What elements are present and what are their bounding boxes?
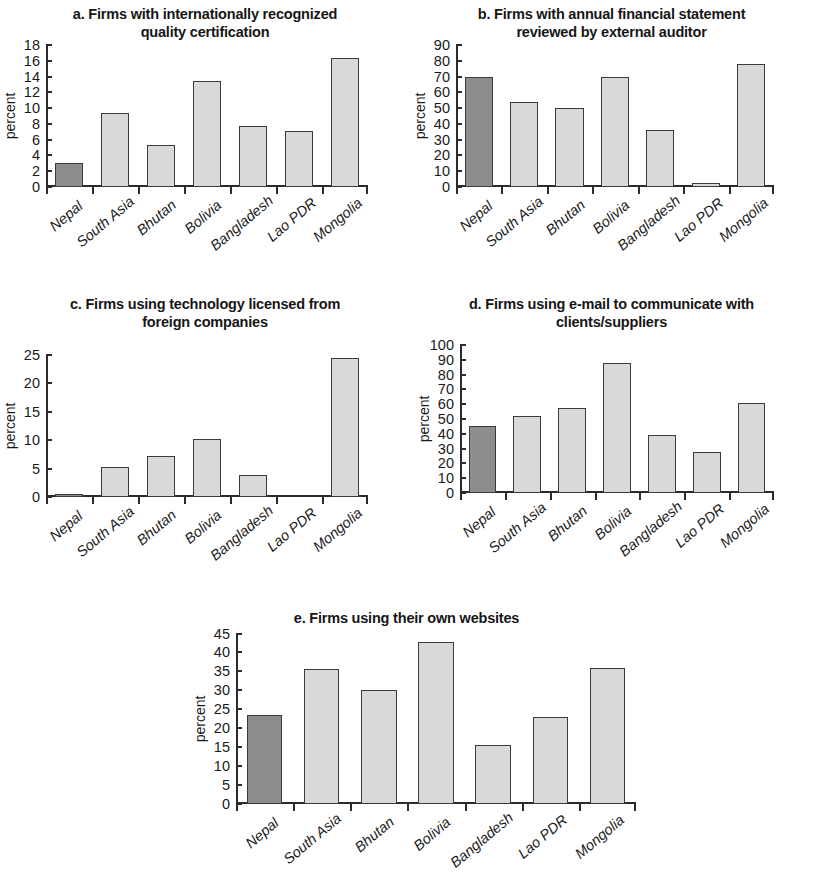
- plot-area-c: percent0510152025NepalSouth AsiaBhutanBo…: [0, 331, 410, 607]
- x-tick-label-e-mongolia: Mongolia: [572, 811, 627, 861]
- y-tick-label-b: 50: [434, 101, 456, 116]
- bar-b-bhutan: [555, 108, 583, 187]
- bar-b-bangladesh: [646, 130, 674, 187]
- y-tick-label-c: 15: [24, 405, 46, 420]
- bar-slot-c-2: [138, 355, 184, 497]
- bar-slot-e-2: [350, 634, 407, 804]
- y-tick-label-d: 50: [438, 412, 460, 427]
- y-tick-label-e: 35: [214, 664, 236, 679]
- x-tick-label-b-nepal: Nepal: [456, 198, 495, 235]
- y-tick-label-a: 12: [24, 85, 46, 100]
- bar-c-south-asia: [101, 467, 130, 497]
- chart-title-a-line2: quality certification: [141, 24, 270, 40]
- bar-slot-e-5: [522, 634, 579, 804]
- bar-slot-d-1: [505, 345, 550, 493]
- bar-slot-d-3: [595, 345, 640, 493]
- x-tick-mark-b-1: [501, 187, 503, 194]
- x-tick-label-e-bolivia: Bolivia: [410, 813, 453, 853]
- x-tick-mark-a-2: [138, 187, 140, 194]
- bar-b-south-asia: [510, 102, 538, 187]
- x-tick-label-c-bhutan: Bhutan: [134, 506, 179, 548]
- bar-c-mongolia: [331, 358, 360, 497]
- y-tick-label-d: 70: [438, 382, 460, 397]
- y-axis-label-a: percent: [2, 93, 18, 140]
- bar-d-bolivia: [603, 363, 631, 493]
- x-tick-mark-c-end: [366, 497, 368, 504]
- bar-slot-d-5: [684, 345, 729, 493]
- axes-d: 0102030405060708090100: [460, 345, 774, 493]
- bar-slot-a-3: [184, 45, 230, 187]
- x-tick-label-d-nepal: Nepal: [460, 504, 499, 541]
- y-axis-label-d: percent: [416, 396, 432, 443]
- axes-a: 024681012141618: [46, 45, 368, 187]
- x-tick-mark-e-0: [236, 804, 238, 811]
- bar-d-bangladesh: [648, 435, 676, 493]
- bar-b-lao-pdr: [692, 183, 720, 187]
- bar-slot-b-0: [456, 45, 501, 187]
- x-tick-label-d-bhutan: Bhutan: [545, 502, 590, 544]
- bar-slot-b-1: [501, 45, 546, 187]
- bar-d-mongolia: [738, 403, 766, 493]
- x-tick-mark-b-4: [638, 187, 640, 194]
- bar-e-bangladesh: [475, 745, 510, 804]
- y-tick-label-e: 25: [214, 702, 236, 717]
- x-tick-mark-b-5: [683, 187, 685, 194]
- y-tick-label-d: 20: [438, 456, 460, 471]
- chart-title-e: e. Firms using their own websites: [0, 600, 813, 628]
- axes-c: 0510152025: [46, 355, 368, 497]
- y-tick-label-b: 40: [434, 117, 456, 132]
- x-tick-mark-e-2: [350, 804, 352, 811]
- x-tick-mark-e-6: [579, 804, 581, 811]
- x-tick-mark-a-0: [46, 187, 48, 194]
- y-tick-label-e: 30: [214, 683, 236, 698]
- x-tick-label-e-bhutan: Bhutan: [351, 813, 396, 855]
- x-tick-label-e-lao-pdr: Lao PDR: [515, 811, 570, 861]
- chart-title-a-line1: a. Firms with internationally recognized: [73, 6, 337, 22]
- bar-slot-a-2: [138, 45, 184, 187]
- y-tick-label-c: 5: [32, 461, 46, 476]
- bar-slot-e-3: [407, 634, 464, 804]
- bar-slot-e-0: [236, 634, 293, 804]
- bar-slot-b-3: [592, 45, 637, 187]
- x-tick-label-b-mongolia: Mongolia: [716, 195, 771, 245]
- y-tick-label-d: 60: [438, 397, 460, 412]
- x-tick-label-a-south-asia: South Asia: [73, 193, 137, 250]
- bar-d-bhutan: [558, 408, 586, 493]
- bar-a-bhutan: [147, 145, 176, 187]
- bar-e-south-asia: [304, 669, 339, 803]
- bar-slot-c-6: [322, 355, 368, 497]
- charts-grid-top: a. Firms with internationally recognized…: [0, 0, 813, 600]
- y-tick-label-e: 45: [214, 626, 236, 641]
- y-tick-label-b: 60: [434, 85, 456, 100]
- x-tick-mark-c-4: [230, 497, 232, 504]
- chart-title-d: d. Firms using e-mail to communicate wit…: [410, 290, 813, 331]
- y-tick-label-a: 2: [32, 164, 46, 179]
- x-tick-mark-e-3: [407, 804, 409, 811]
- x-tick-mark-b-6: [729, 187, 731, 194]
- chart-title-c: c. Firms using technology licensed from …: [0, 290, 410, 331]
- x-tick-label-d-mongolia: Mongolia: [716, 501, 771, 551]
- x-tick-mark-d-5: [684, 493, 686, 500]
- plot-area-b: percent0102030405060708090NepalSouth Asi…: [410, 41, 813, 297]
- x-tick-mark-a-6: [322, 187, 324, 194]
- y-tick-label-d: 80: [438, 367, 460, 382]
- y-axis-label-c: percent: [2, 403, 18, 450]
- bar-d-nepal: [469, 426, 497, 493]
- chart-title-b: b. Firms with annual financial statement…: [410, 0, 813, 41]
- y-tick-label-e: 40: [214, 645, 236, 660]
- bar-a-lao-pdr: [285, 131, 314, 187]
- x-tick-mark-b-0: [456, 187, 458, 194]
- y-tick-label-c: 25: [24, 348, 46, 363]
- chart-title-b-line2: reviewed by external auditor: [516, 24, 706, 40]
- y-tick-label-d: 100: [430, 338, 460, 353]
- y-tick-label-a: 16: [24, 54, 46, 69]
- y-tick-label-b: 30: [434, 132, 456, 147]
- bar-slot-c-4: [230, 355, 276, 497]
- bar-slot-b-4: [638, 45, 683, 187]
- bar-slot-a-5: [276, 45, 322, 187]
- y-tick-label-c: 20: [24, 376, 46, 391]
- axes-e: 051015202530354045: [236, 634, 636, 804]
- bar-slot-a-1: [92, 45, 138, 187]
- chart-title-b-line1: b. Firms with annual financial statement: [478, 6, 746, 22]
- x-tick-mark-a-3: [184, 187, 186, 194]
